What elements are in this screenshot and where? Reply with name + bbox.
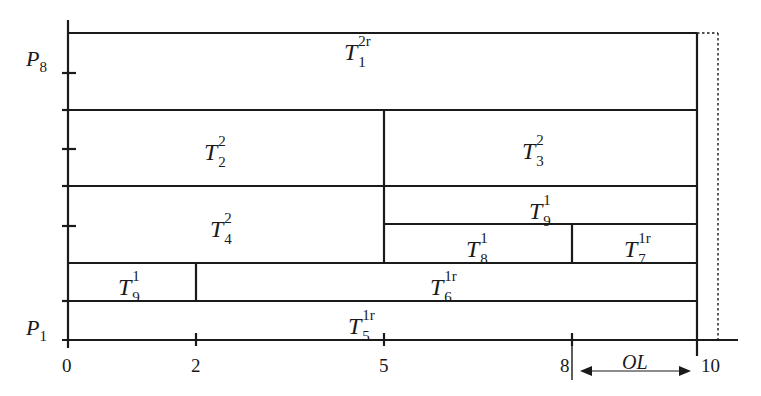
overlap-label: OL [622,352,648,372]
y-label-p1: P1 [26,317,47,339]
y-label-p8-base: P [26,46,39,71]
task-t1: T2r1 [344,40,371,70]
x-tick-5: 5 [379,356,389,375]
task-t4: T24 [210,217,232,247]
task-t9-upper: T19 [529,199,551,229]
task-t3: T23 [522,139,544,169]
x-tick-0: 0 [62,356,72,375]
x-tick-8: 8 [560,356,570,375]
task-t6: T1r6 [430,275,457,305]
task-t2: T22 [204,140,226,170]
task-t9-lower: T19 [118,275,140,305]
y-label-p1-base: P [26,315,39,340]
task-t8: T18 [466,237,488,267]
schedule-diagram [0,0,761,396]
y-label-p8-sub: 8 [39,59,47,75]
y-label-p8: P8 [26,48,47,70]
task-t7: T1r7 [624,237,651,267]
x-tick-10: 10 [701,356,720,375]
dotted-extension [697,33,718,340]
y-label-p1-sub: 1 [39,328,47,344]
x-tick-2: 2 [191,356,201,375]
task-t5: T1r5 [348,314,375,344]
